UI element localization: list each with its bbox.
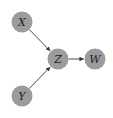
diagram-svg: XYZW bbox=[0, 0, 113, 118]
node-label: Z bbox=[53, 53, 62, 66]
node-x: X bbox=[12, 12, 33, 33]
edge-x-to-z bbox=[29, 30, 50, 51]
node-label: W bbox=[89, 53, 102, 66]
node-label: X bbox=[17, 16, 27, 29]
edge-y-to-z bbox=[29, 67, 50, 88]
node-z: Z bbox=[48, 49, 69, 70]
node-w: W bbox=[85, 49, 106, 70]
node-y: Y bbox=[12, 86, 33, 107]
causal-diagram: XYZW bbox=[0, 0, 113, 118]
